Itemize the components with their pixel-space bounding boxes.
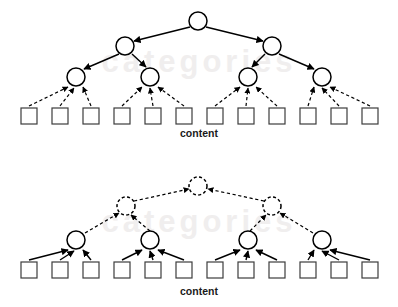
content-item-square xyxy=(52,262,68,278)
top-category-node-3 xyxy=(239,68,257,86)
edge-root-to-mid-right xyxy=(206,27,263,41)
edge-content-9-to-cat-3 xyxy=(256,87,277,106)
bottom-content-edges xyxy=(29,250,370,260)
bottom-root-node xyxy=(189,177,207,195)
edge-content-6-to-cat-2 xyxy=(158,250,184,260)
content-item-square xyxy=(362,108,378,124)
top-mid-node-right xyxy=(263,37,281,55)
bottom-content-label: content xyxy=(180,285,218,297)
top-category-node-1 xyxy=(67,68,85,86)
diagram-canvas: categories categories xyxy=(0,0,398,307)
edge-content-10-to-cat-4 xyxy=(308,87,314,106)
content-item-square xyxy=(331,262,347,278)
top-content-squares xyxy=(21,108,378,124)
content-item-square xyxy=(300,108,316,124)
content-item-square xyxy=(176,108,192,124)
bottom-category-node-1 xyxy=(67,231,85,249)
top-content-edges xyxy=(29,87,370,106)
content-item-square xyxy=(145,108,161,124)
edge-content-5-to-cat-2 xyxy=(150,251,153,260)
edge-content-11-to-cat-4 xyxy=(322,251,339,260)
content-item-square xyxy=(300,262,316,278)
content-item-square xyxy=(83,108,99,124)
top-category-node-4 xyxy=(313,68,331,86)
content-item-square xyxy=(114,108,130,124)
content-item-square xyxy=(269,262,285,278)
edge-content-2-to-cat-1 xyxy=(60,88,74,106)
content-item-square xyxy=(21,262,37,278)
content-item-square xyxy=(114,262,130,278)
bottom-category-node-4 xyxy=(313,231,331,249)
content-item-square xyxy=(269,108,285,124)
top-content-label: content xyxy=(180,127,218,139)
edge-content-7-to-cat-3 xyxy=(215,250,240,260)
top-root-node xyxy=(189,12,207,30)
top-category-node-2 xyxy=(141,68,159,86)
edge-content-8-to-cat-3 xyxy=(246,251,248,260)
bottom-category-node-3 xyxy=(239,231,257,249)
edge-content-2-to-cat-1 xyxy=(60,251,74,260)
edge-content-7-to-cat-3 xyxy=(215,87,240,106)
content-item-square xyxy=(362,262,378,278)
content-item-square xyxy=(238,262,254,278)
edge-mid-left-to-root xyxy=(134,189,189,201)
edge-content-6-to-cat-2 xyxy=(158,87,184,106)
content-item-square xyxy=(207,262,223,278)
content-item-square xyxy=(145,262,161,278)
edge-content-3-to-cat-1 xyxy=(83,87,91,106)
bottom-mid-node-left xyxy=(117,197,135,215)
edge-content-5-to-cat-2 xyxy=(150,88,153,106)
content-item-square xyxy=(176,262,192,278)
edge-content-4-to-cat-2 xyxy=(122,87,142,106)
edge-content-10-to-cat-4 xyxy=(308,250,314,260)
edge-mid-right-to-root xyxy=(208,189,264,201)
content-item-square xyxy=(207,108,223,124)
edge-content-12-to-cat-4 xyxy=(330,87,370,106)
bottom-category-node-2 xyxy=(141,231,159,249)
content-item-square xyxy=(52,108,68,124)
content-item-square xyxy=(21,108,37,124)
edge-content-9-to-cat-3 xyxy=(256,250,277,260)
content-item-square xyxy=(83,262,99,278)
edge-content-8-to-cat-3 xyxy=(246,88,248,106)
edge-content-4-to-cat-2 xyxy=(122,250,142,260)
bottom-content-squares xyxy=(21,262,378,278)
edge-root-to-mid-left xyxy=(134,27,190,41)
edge-content-3-to-cat-1 xyxy=(83,250,91,260)
top-mid-node-left xyxy=(116,37,134,55)
bottom-mid-node-right xyxy=(263,197,281,215)
edge-content-1-to-cat-1 xyxy=(29,87,68,106)
taxonomy-folksonomy-svg: categories categories xyxy=(0,0,398,307)
content-item-square xyxy=(331,108,347,124)
content-item-square xyxy=(238,108,254,124)
